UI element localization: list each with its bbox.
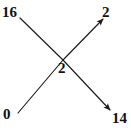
edge-bottom-left-to-center xyxy=(18,60,63,113)
edge-center-to-bottom-right xyxy=(63,60,110,110)
label-top-right: 2 xyxy=(102,5,110,20)
label-center-node: 2 xyxy=(58,61,66,76)
label-top-left: 16 xyxy=(2,5,17,20)
label-bottom-right: 14 xyxy=(112,111,127,126)
label-bottom-left: 0 xyxy=(3,107,11,122)
edge-center-to-top-right xyxy=(63,19,103,60)
diagram-canvas: 16 2 2 0 14 xyxy=(0,0,131,131)
edge-top-left-to-center xyxy=(20,18,63,60)
